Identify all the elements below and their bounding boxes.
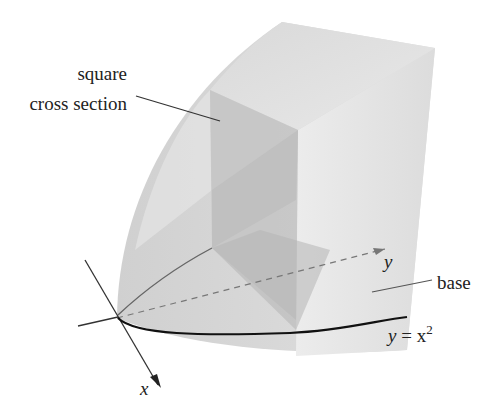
cross-section-label-line1: square: [77, 63, 127, 84]
x-axis-arrowhead: [150, 374, 161, 388]
cross-section-label-line2: cross section: [29, 93, 127, 114]
curve-eq-body: = x: [396, 325, 426, 346]
axis-stub: [78, 317, 118, 326]
curve-eq-y: y: [386, 325, 397, 346]
y-axis-label: y: [382, 251, 393, 272]
base-label: base: [437, 272, 471, 293]
x-axis-label: x: [139, 378, 149, 399]
curve-equation-label: y = x2: [386, 322, 433, 346]
solid-diagram: square cross section base y x y = x2: [0, 0, 491, 410]
curve-eq-exponent: 2: [426, 322, 433, 337]
